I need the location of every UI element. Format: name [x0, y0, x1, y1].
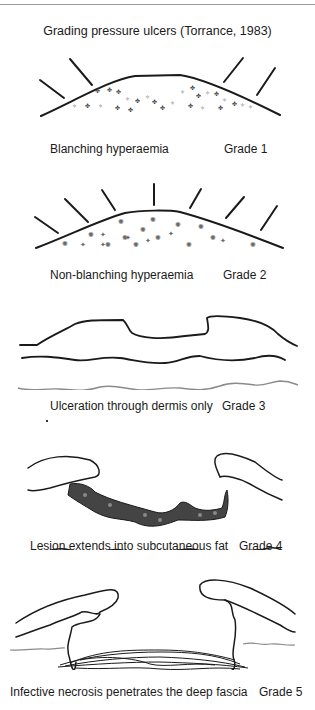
svg-text:✺: ✺: [62, 240, 68, 248]
figure-title: Grading pressure ulcers (Torrance, 1983): [0, 24, 315, 38]
grade-4-description: Lesion extends into subcutaneous fat: [30, 539, 228, 553]
grade-3-description: Ulceration through dermis only: [50, 399, 213, 413]
grade-2-description: Non-blanching hyperaemia: [50, 268, 193, 282]
svg-text:✧: ✧: [170, 99, 175, 106]
svg-text:✧: ✧: [125, 95, 130, 102]
svg-text:✧: ✧: [98, 102, 103, 109]
grade-2-label: Grade 2: [223, 268, 266, 282]
svg-text:✧: ✧: [72, 102, 77, 109]
svg-text:✦: ✦: [100, 241, 106, 249]
svg-text:✺: ✺: [118, 218, 124, 226]
svg-text:✦: ✦: [145, 237, 151, 245]
svg-text:✧: ✧: [248, 103, 253, 110]
svg-text:✺: ✺: [105, 241, 111, 249]
svg-text:✺: ✺: [88, 231, 94, 239]
grade-4-illustration: [0, 450, 315, 550]
grade-3-label: Grade 3: [222, 399, 265, 413]
svg-text:✤: ✤: [85, 102, 90, 109]
svg-text:✧: ✧: [180, 88, 185, 95]
grade-5-label: Grade 5: [259, 685, 302, 699]
grade-2-illustration: ✺✦✺ ✦✺✺ ✺✺✺ ✺✺✦ ✺✺✺ ✺✦✺ ✦✦✦: [0, 180, 315, 255]
svg-text:✤: ✤: [116, 88, 121, 95]
grade-5-description: Infective necrosis penetrates the deep f…: [10, 685, 247, 699]
svg-text:✤: ✤: [135, 97, 140, 104]
svg-text:✤: ✤: [232, 100, 237, 107]
svg-text:✤: ✤: [115, 104, 120, 111]
svg-text:✤: ✤: [214, 90, 219, 97]
svg-text:✧: ✧: [222, 96, 227, 103]
svg-text:✺: ✺: [140, 226, 146, 234]
svg-text:✧: ✧: [205, 89, 210, 96]
svg-text:✧: ✧: [145, 93, 150, 100]
svg-text:✺: ✺: [198, 223, 204, 231]
svg-text:✤: ✤: [218, 104, 223, 111]
svg-text:✺: ✺: [150, 216, 156, 224]
svg-text:✦: ✦: [80, 241, 86, 249]
svg-text:✤: ✤: [188, 102, 193, 109]
grade-1-label: Grade 1: [224, 142, 267, 156]
svg-text:✦: ✦: [125, 234, 131, 242]
svg-text:✤: ✤: [160, 104, 165, 111]
svg-text:✺: ✺: [210, 234, 216, 242]
svg-text:✺: ✺: [175, 221, 181, 229]
svg-text:✺: ✺: [133, 241, 139, 249]
top-border: [0, 0, 315, 5]
grade-3-illustration: [0, 310, 315, 390]
stray-dot: [46, 420, 48, 422]
svg-text:✺: ✺: [250, 241, 256, 249]
svg-text:✤: ✤: [107, 86, 112, 93]
grade-5-illustration: [0, 570, 315, 670]
svg-text:✧: ✧: [240, 101, 245, 108]
svg-text:✦: ✦: [220, 237, 226, 245]
svg-text:✤: ✤: [196, 92, 201, 99]
grade-1-illustration: ✤✤✤ ✧✤✧ ✤✤✧ ✧✤✤ ✧✤✧ ✤✧✧ ✤✧✧ ✤✤✤ ✧✤: [0, 50, 315, 125]
svg-text:✤: ✤: [95, 87, 100, 94]
svg-text:✦: ✦: [168, 230, 174, 238]
svg-text:✤: ✤: [128, 106, 133, 113]
svg-text:✤: ✤: [152, 98, 157, 105]
svg-text:✤: ✤: [190, 84, 195, 91]
grade-4-label: Grade 4: [239, 539, 282, 553]
grade-1-description: Blanching hyperaemia: [50, 142, 169, 156]
svg-text:✺: ✺: [155, 234, 161, 242]
svg-text:✦: ✦: [100, 231, 106, 239]
svg-text:✺: ✺: [186, 241, 192, 249]
svg-text:✧: ✧: [200, 104, 205, 111]
